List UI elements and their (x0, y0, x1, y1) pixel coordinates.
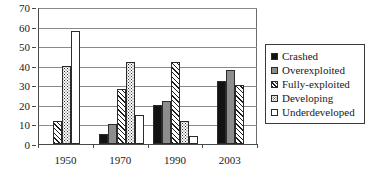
bar-developing-1970 (126, 62, 135, 144)
y-axis-tick-label: 30 (19, 81, 30, 92)
y-axis-tick-mark (32, 125, 36, 126)
x-axis-tick-mark (93, 144, 94, 148)
y-axis-tick-label: 20 (19, 100, 30, 111)
legend-item-label: Crashed (282, 50, 318, 62)
x-axis-tick-label: 2003 (219, 154, 241, 166)
x-axis-tick-mark (257, 144, 258, 148)
bar-group-1970 (94, 8, 149, 144)
legend-item-fully-exploited[interactable]: Fully-exploited (271, 77, 360, 91)
x-axis-tick-label: 1970 (109, 154, 131, 166)
y-axis-tick-label: 10 (19, 120, 30, 131)
y-axis-tick-mark (32, 47, 36, 48)
bar-fully-exploited-2003 (235, 85, 244, 144)
bar-underdeveloped-1950 (71, 31, 80, 145)
legend-swatch-icon (271, 67, 278, 74)
bar-overexploited-1970 (108, 124, 117, 144)
bar-underdeveloped-1970 (135, 115, 144, 144)
bar-crashed-1970 (99, 134, 108, 144)
legend-swatch-icon (271, 81, 278, 88)
legend-item-underdeveloped[interactable]: Underdeveloped (271, 105, 360, 119)
legend-swatch-icon (271, 109, 278, 116)
y-axis-tick-mark (32, 145, 36, 146)
bar-underdeveloped-1990 (189, 136, 198, 144)
plot-area (38, 8, 257, 145)
bar-chart: 010203040506070 1950197019902003 Crashed… (0, 0, 371, 177)
x-axis-tick-label: 1990 (164, 154, 186, 166)
bar-fully-exploited-1950 (53, 121, 62, 144)
legend-item-label: Fully-exploited (282, 78, 350, 90)
x-axis: 1950197019902003 (38, 148, 257, 168)
bar-group-2003 (203, 8, 258, 144)
x-axis-tick-label: 1950 (54, 154, 76, 166)
bar-group-1990 (149, 8, 204, 144)
y-axis-tick-label: 40 (19, 61, 30, 72)
legend-item-label: Overexploited (282, 64, 345, 76)
legend-swatch-icon (271, 53, 278, 60)
y-axis-tick-mark (32, 28, 36, 29)
legend-item-crashed[interactable]: Crashed (271, 49, 360, 63)
y-axis: 010203040506070 (0, 0, 36, 152)
bar-overexploited-1990 (162, 101, 171, 144)
legend-item-overexploited[interactable]: Overexploited (271, 63, 360, 77)
bar-crashed-2003 (217, 81, 226, 144)
legend-item-label: Underdeveloped (282, 106, 355, 118)
y-axis-tick-label: 50 (19, 42, 30, 53)
legend-item-developing[interactable]: Developing (271, 91, 360, 105)
bar-fully-exploited-1990 (171, 62, 180, 144)
y-axis-tick-mark (32, 86, 36, 87)
x-axis-tick-mark (38, 144, 39, 148)
bar-overexploited-2003 (226, 70, 235, 144)
legend: CrashedOverexploitedFully-exploitedDevel… (265, 44, 365, 124)
bars-layer (39, 8, 257, 144)
x-axis-tick-mark (148, 144, 149, 148)
y-axis-tick-label: 60 (19, 22, 30, 33)
y-axis-tick-label: 70 (19, 3, 30, 14)
bar-developing-1990 (180, 121, 189, 144)
y-axis-tick-mark (32, 106, 36, 107)
x-axis-tick-mark (202, 144, 203, 148)
y-axis-tick-mark (32, 8, 36, 9)
legend-swatch-icon (271, 95, 278, 102)
bar-fully-exploited-1970 (117, 89, 126, 144)
bar-crashed-1990 (153, 105, 162, 144)
bar-developing-1950 (62, 66, 71, 144)
legend-item-label: Developing (282, 92, 333, 104)
y-axis-tick-label: 0 (25, 140, 31, 151)
y-axis-tick-mark (32, 67, 36, 68)
bar-group-1950 (39, 8, 94, 144)
